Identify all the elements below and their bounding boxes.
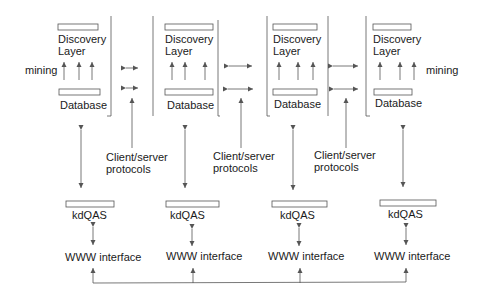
mining-label-left: mining	[25, 64, 57, 76]
protocol-label-3a: Client/server	[314, 149, 376, 161]
database-label-2: Database	[167, 99, 214, 111]
www-bus	[93, 268, 406, 283]
discovery-label-4a: Discovery	[373, 33, 421, 45]
database-label-4: Database	[375, 97, 422, 109]
discovery-layer-box-4	[373, 24, 411, 30]
protocol-label-1b: protocols	[106, 163, 151, 175]
peer-arrows	[126, 66, 358, 89]
kdqas-label-3: kdQAS	[280, 209, 315, 221]
discovery-label-2a: Discovery	[165, 33, 213, 45]
database-box-3	[273, 89, 317, 95]
database-box-1	[59, 89, 100, 95]
kdqas-box-1	[66, 201, 114, 207]
www-interface-label-3: WWW interface	[268, 250, 344, 262]
kdqas-www-arrows	[93, 227, 406, 246]
database-label-1: Database	[60, 99, 107, 111]
mining-label-right: mining	[426, 64, 458, 76]
discovery-label-3a: Discovery	[273, 33, 321, 45]
kdqas-box-2	[166, 201, 219, 207]
www-interface-label-2: WWW interface	[166, 250, 242, 262]
protocol-label-3b: protocols	[314, 161, 359, 173]
protocol-label-2a: Client/server	[213, 150, 275, 162]
www-interface-label-1: WWW interface	[65, 251, 141, 263]
kdqas-label-4: kdQAS	[388, 208, 423, 220]
discovery-label-1b: Layer	[58, 45, 86, 57]
discovery-layer-box-3	[273, 24, 317, 30]
protocol-label-2b: protocols	[213, 162, 258, 174]
www-interface-label-4: WWW interface	[374, 250, 450, 262]
discovery-label-2b: Layer	[165, 45, 193, 57]
kdqas-label-1: kdQAS	[72, 209, 107, 221]
database-box-2	[165, 89, 213, 95]
database-label-3: Database	[274, 98, 321, 110]
discovery-layer-box-1	[58, 24, 98, 30]
discovery-layer-box-2	[165, 24, 213, 30]
database-box-4	[374, 89, 412, 95]
discovery-label-1a: Discovery	[58, 33, 106, 45]
kdqas-box-3	[272, 201, 327, 207]
protocol-label-1a: Client/server	[106, 151, 168, 163]
discovery-label-4b: Layer	[373, 45, 401, 57]
discovery-label-3b: Layer	[273, 45, 301, 57]
kdqas-box-4	[380, 200, 436, 206]
kdqas-label-2: kdQAS	[170, 209, 205, 221]
